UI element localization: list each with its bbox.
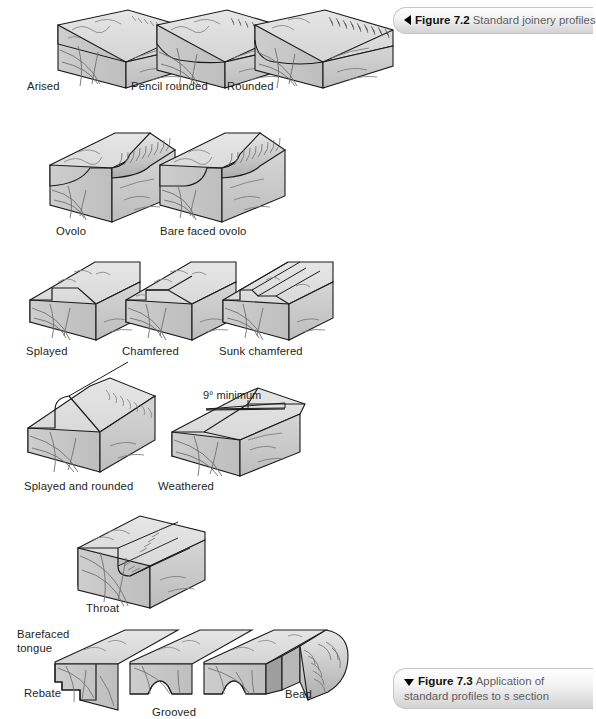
label-weathered: Weathered xyxy=(158,480,214,494)
profile-block-splayed xyxy=(30,262,140,340)
annotation-9-degree-minimum: 9° minimum xyxy=(203,389,261,401)
label-rebate: Rebate xyxy=(24,687,61,701)
label-splayed: Splayed xyxy=(26,345,68,359)
label-barefaced-tongue: Barefaced tongue xyxy=(17,628,69,655)
label-pencil-rounded: Pencil rounded xyxy=(131,80,208,94)
label-arised: Arised xyxy=(27,80,60,94)
profile-block-sunk-chamfered xyxy=(223,262,333,340)
profile-block-bare-faced-ovolo xyxy=(160,133,285,222)
label-throat: Throat xyxy=(86,602,119,616)
figure-caption-7-3: Figure 7.3Application of standard profil… xyxy=(393,668,593,709)
label-sunk-chamfered: Sunk chamfered xyxy=(219,345,303,359)
figure-title-7-2: Standard joinery profiles xyxy=(473,14,596,26)
down-triangle-icon xyxy=(404,679,414,686)
profile-block-splayed-and-rounded xyxy=(28,362,155,472)
label-bead: Bead xyxy=(285,688,312,702)
figure-caption-7-2: Figure 7.2Standard joinery profiles xyxy=(393,7,593,34)
profile-block-chamfered xyxy=(126,262,236,340)
label-bare-faced-ovolo: Bare faced ovolo xyxy=(160,225,246,239)
profile-block-ovolo xyxy=(50,133,175,222)
figure-number-7-3: Figure 7.3 xyxy=(418,674,473,687)
label-chamfered: Chamfered xyxy=(122,345,179,359)
label-grooved: Grooved xyxy=(152,706,196,719)
label-rounded: Rounded xyxy=(227,80,274,94)
label-splayed-and-rounded: Splayed and rounded xyxy=(24,480,133,494)
profile-block-throat xyxy=(78,516,205,608)
profile-block-weathered xyxy=(172,388,305,476)
left-triangle-icon xyxy=(404,15,411,25)
label-ovolo: Ovolo xyxy=(56,225,86,239)
figure-number-7-2: Figure 7.2 xyxy=(415,13,470,26)
